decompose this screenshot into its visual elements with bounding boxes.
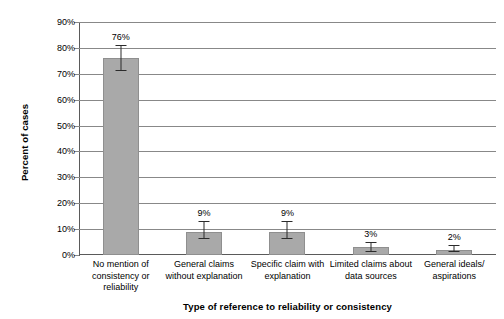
error-bar-cap-bottom: [282, 238, 293, 239]
x-axis-category-label-line: aspirations: [413, 271, 496, 283]
error-bar-cap-top: [449, 245, 460, 246]
x-axis-category-label-line: General ideals/: [413, 259, 496, 271]
error-bar-stem: [287, 221, 288, 239]
bar-group: 2%: [413, 22, 496, 255]
error-bar-cap-top: [115, 45, 126, 46]
error-bar-stem: [204, 221, 205, 239]
bar-group: 76%: [79, 22, 162, 255]
y-axis-tick-label: 70%: [41, 70, 75, 79]
x-axis-category-label: Limited claims aboutdata sources: [329, 259, 412, 282]
y-axis-tick-label: 10%: [41, 225, 75, 234]
x-axis-category-label-line: Specific claim with: [246, 259, 329, 271]
plot-area: 0%10%20%30%40%50%60%70%80%90%76%9%9%3%2%: [79, 22, 496, 255]
x-axis-category-label-line: reliability: [79, 282, 162, 294]
error-bar: [115, 45, 126, 71]
x-axis-category-label-line: consistency or: [79, 271, 162, 283]
bar-value-label: 9%: [198, 208, 211, 218]
error-bar: [449, 245, 460, 253]
y-axis-tick-label: 0%: [41, 251, 75, 260]
y-axis-tick-label: 60%: [41, 96, 75, 105]
x-axis-category-label: No mention ofconsistency orreliability: [79, 259, 162, 294]
error-bar-cap-top: [365, 242, 376, 243]
y-axis-tick-label: 80%: [41, 44, 75, 53]
x-axis-category-label-line: Limited claims about: [329, 259, 412, 271]
x-axis-category-label-line: No mention of: [79, 259, 162, 271]
y-axis-tick-label: 40%: [41, 147, 75, 156]
error-bar-cap-bottom: [115, 70, 126, 71]
x-axis-category-label-line: without explanation: [162, 271, 245, 283]
y-axis-tick-label: 50%: [41, 122, 75, 131]
error-bar: [282, 221, 293, 239]
bar-value-label: 3%: [364, 229, 377, 239]
x-axis-category-label: General claimswithout explanation: [162, 259, 245, 282]
y-axis-tick-label: 30%: [41, 173, 75, 182]
error-bar-cap-bottom: [365, 251, 376, 252]
x-axis-category-label: General ideals/aspirations: [413, 259, 496, 282]
error-bar-cap-bottom: [449, 251, 460, 252]
error-bar-cap-top: [282, 221, 293, 222]
x-axis-category-label: Specific claim withexplanation: [246, 259, 329, 282]
error-bar-cap-top: [199, 221, 210, 222]
x-axis-category-label-line: explanation: [246, 271, 329, 283]
x-axis-category-label-line: data sources: [329, 271, 412, 283]
error-bar: [199, 221, 210, 239]
x-axis-title: Type of reference to reliability or cons…: [79, 301, 496, 312]
y-axis-tick-label: 90%: [41, 18, 75, 27]
y-axis-tick-label: 20%: [41, 199, 75, 208]
error-bar-stem: [120, 45, 121, 71]
bar-group: 9%: [246, 22, 329, 255]
bar-value-label: 9%: [281, 208, 294, 218]
bar-group: 9%: [162, 22, 245, 255]
x-axis-category-label-line: General claims: [162, 259, 245, 271]
bar-value-label: 76%: [112, 32, 130, 42]
bar-group: 3%: [329, 22, 412, 255]
error-bar: [365, 242, 376, 252]
bar-value-label: 2%: [448, 232, 461, 242]
bar[interactable]: [103, 58, 139, 255]
bar-chart: Percent of cases 0%10%20%30%40%50%60%70%…: [0, 0, 504, 319]
y-axis-title: Percent of cases: [19, 83, 30, 203]
error-bar-cap-bottom: [199, 238, 210, 239]
